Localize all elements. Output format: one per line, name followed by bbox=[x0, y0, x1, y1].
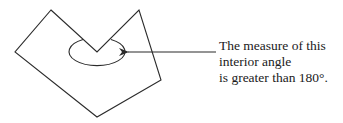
angle-annotation: The measure of this interior angle is gr… bbox=[219, 38, 328, 86]
annotation-line-1: The measure of this bbox=[219, 38, 328, 54]
annotation-line-3: is greater than 180°. bbox=[219, 70, 328, 86]
concave-polygon bbox=[15, 10, 161, 117]
annotation-line-2: interior angle bbox=[219, 54, 328, 70]
